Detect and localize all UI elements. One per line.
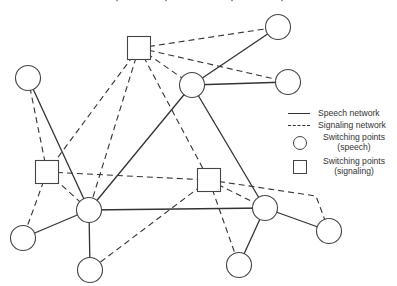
signaling-link [209,180,239,265]
speech-switching-point-icon [276,70,301,95]
legend-item-speech-network: Speech network [288,108,397,120]
speech-link [192,82,288,85]
circle-icon [293,136,307,150]
signaling-link [47,172,209,180]
legend-label: Switching points (signaling) [312,156,396,176]
legend: Speech network Signaling network Switchi… [288,108,397,180]
speech-switching-point-icon [317,219,342,244]
signaling-link [28,78,47,172]
signaling-network-links [23,27,329,270]
speech-link [89,208,265,210]
legend-item-signaling-switching: Switching points (signaling) [288,156,397,180]
signaling-switching-point-icon [36,161,59,184]
speech-link [28,78,89,210]
speech-link [192,27,278,85]
signaling-link [90,180,209,270]
signaling-switching-point-icon [128,37,151,60]
signaling-link [139,48,209,180]
legend-label: Switching points (speech) [312,132,396,152]
signaling-link [139,27,278,48]
speech-switching-point-icon [78,258,103,283]
speech-switching-point-icon [77,198,102,223]
dashed-line-icon [288,125,310,126]
speech-switching-point-icon [16,66,41,91]
square-icon [293,160,307,174]
speech-switching-point-icon [11,226,36,251]
signaling-switching-point-icon [198,169,221,192]
speech-link [89,85,192,210]
legend-item-signaling-network: Signaling network [288,120,397,132]
signaling-link [89,48,139,210]
solid-line-icon [288,113,310,114]
signaling-link [139,48,288,82]
speech-switching-point-icon [227,253,252,278]
speech-switching-point-icon [180,73,205,98]
speech-switching-point-icon [253,196,278,221]
signaling-link [47,48,139,172]
speech-network-links [23,27,329,270]
speech-switching-point-icon [266,15,291,40]
legend-label: Signaling network [318,120,386,130]
cropped-top-text-marks [116,0,283,1]
legend-label: Speech network [318,108,380,118]
legend-item-speech-switching: Switching points (speech) [288,132,397,156]
